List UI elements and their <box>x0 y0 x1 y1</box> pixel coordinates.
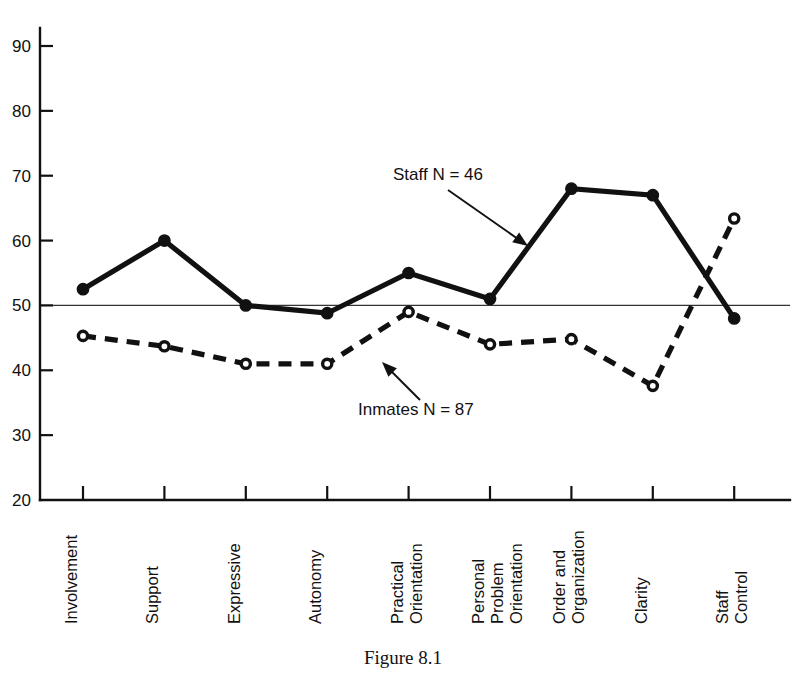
x-category-label-6-line-0: Order and <box>550 550 568 624</box>
x-category-label-7-line-0: Clarity <box>632 576 650 624</box>
y-tick-label-20: 20 <box>12 491 31 510</box>
x-category-label-8-line-0: Staff <box>713 590 731 624</box>
data-point-inmates-2 <box>241 359 250 368</box>
series-annotations: Staff N = 46Inmates N = 87 <box>358 165 528 419</box>
figure-caption: Figure 8.1 <box>364 647 442 668</box>
y-tick-label-40: 40 <box>12 361 31 380</box>
data-point-inmates-8 <box>730 214 739 223</box>
x-category-label-8-line-1: Control <box>732 571 750 624</box>
x-category-label-0-line-0: Involvement <box>62 535 80 624</box>
annotation-staff-leader-line <box>448 190 519 240</box>
y-tick-label-70: 70 <box>12 167 31 186</box>
x-category-label-6-line-1: Organization <box>569 530 587 624</box>
data-point-staff-7 <box>647 190 658 201</box>
y-axis-ticks <box>40 46 53 435</box>
x-category-label-2-line-0: Expressive <box>225 543 243 624</box>
x-axis-ticks <box>83 486 734 500</box>
x-axis-category-labels: InvolvementSupportExpressiveAutonomyPrac… <box>62 530 750 624</box>
data-point-staff-6 <box>566 183 577 194</box>
annotation-inmates-leader-line <box>390 370 420 400</box>
annotation-staff-label: Staff N = 46 <box>393 165 483 184</box>
data-point-staff-5 <box>484 293 495 304</box>
data-point-inmates-3 <box>323 359 332 368</box>
annotation-inmates-leader <box>382 362 420 400</box>
x-category-label-5-line-0: Personal <box>469 559 487 624</box>
data-point-inmates-4 <box>404 307 413 316</box>
x-category-label-5-line-2: Orientation <box>507 543 525 624</box>
data-point-staff-3 <box>322 308 333 319</box>
figure-container: 2030405060708090 InvolvementSupportExpre… <box>0 0 806 686</box>
x-category-label-4-line-1: Orientation <box>407 543 425 624</box>
x-category-label-1-line-0: Support <box>143 566 161 624</box>
y-tick-label-50: 50 <box>12 296 31 315</box>
data-point-inmates-0 <box>78 331 87 340</box>
series-line-inmates <box>83 219 734 386</box>
x-category-label-5-line-1: Problem <box>488 563 506 624</box>
annotation-staff-leader-head <box>512 232 528 246</box>
series-line-staff <box>83 189 734 319</box>
data-point-inmates-1 <box>160 342 169 351</box>
y-tick-label-90: 90 <box>12 37 31 56</box>
line-chart: 2030405060708090 InvolvementSupportExpre… <box>0 0 806 686</box>
data-series <box>83 189 734 386</box>
annotation-staff-leader <box>448 190 528 246</box>
y-tick-label-60: 60 <box>12 232 31 251</box>
data-point-staff-2 <box>240 300 251 311</box>
data-point-inmates-6 <box>567 335 576 344</box>
annotation-inmates-label: Inmates N = 87 <box>358 400 474 419</box>
data-markers <box>77 183 739 390</box>
x-category-label-3-line-0: Autonomy <box>306 549 324 624</box>
data-point-inmates-5 <box>485 340 494 349</box>
data-point-staff-4 <box>403 267 414 278</box>
y-axis-tick-labels: 2030405060708090 <box>12 37 31 510</box>
chart-axes <box>40 28 790 500</box>
data-point-staff-8 <box>729 313 740 324</box>
x-category-label-4-line-0: Practical <box>388 561 406 624</box>
y-tick-label-30: 30 <box>12 426 31 445</box>
data-point-staff-1 <box>159 235 170 246</box>
data-point-inmates-7 <box>648 381 657 390</box>
y-tick-label-80: 80 <box>12 102 31 121</box>
data-point-staff-0 <box>77 284 88 295</box>
